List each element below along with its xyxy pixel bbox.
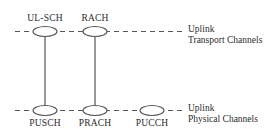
node-label-pusch: PUSCH [29,118,61,128]
transport-layer-caption-line1: Uplink [188,24,262,35]
uplink-channel-mapping-diagram: UL-SCH RACH PUSCH PRACH PUCCH Uplink Tra… [0,0,271,135]
transport-layer-caption-line2: Transport Channels [188,35,262,46]
node-prach[interactable] [83,106,107,116]
physical-layer-caption-line2: Physical Channels [188,114,258,125]
transport-layer-caption: Uplink Transport Channels [188,24,262,46]
physical-layer-caption-line1: Uplink [188,103,258,114]
node-label-rach: RACH [81,13,108,23]
node-rach[interactable] [83,27,107,37]
node-pusch[interactable] [33,106,57,116]
node-ul-sch[interactable] [33,27,57,37]
node-pucch[interactable] [140,106,164,116]
node-label-prach: PRACH [79,118,112,128]
physical-layer-caption: Uplink Physical Channels [188,103,258,125]
node-label-ul-sch: UL-SCH [27,13,63,23]
node-label-pucch: PUCCH [136,118,169,128]
